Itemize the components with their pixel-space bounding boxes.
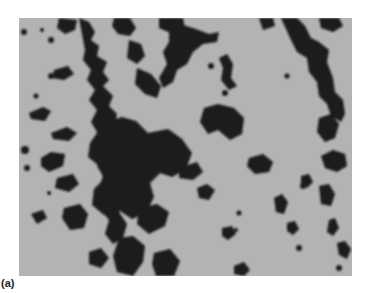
- panel-label: (a): [1, 277, 14, 289]
- micrograph-image: [19, 18, 352, 276]
- particle-clusters: [19, 18, 352, 276]
